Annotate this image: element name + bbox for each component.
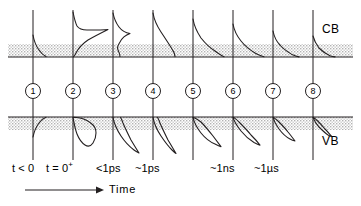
time-label-stage-6: ~1ns [210,163,235,174]
time-label-stage-4: ~1ps [135,163,160,174]
stage-number-5: 5 [187,85,200,98]
stage-number-1: 1 [27,85,40,98]
conduction-band-label: CB [322,23,339,35]
time-label-stage-2-superscript: + [68,160,73,169]
stage-number-2: 2 [67,85,80,98]
stage-number-4: 4 [147,85,160,98]
time-label-stage-3: <1ps [96,163,121,174]
stage-number-7: 7 [267,85,280,98]
conduction-band-strip [8,44,353,57]
stage-number-3: 3 [107,85,120,98]
time-label-stage-7: ~1µs [254,163,279,174]
diagram-canvas [0,0,361,206]
time-label-stage-1: t < 0 [12,163,34,174]
time-label-stage-2: t = 0+ [46,163,73,174]
valence-band-label: VB [322,135,339,147]
stage-number-6: 6 [227,85,240,98]
time-axis-label: Time [109,184,136,195]
time-label-stage-2-text: t = 0 [46,162,68,174]
carrier-relaxation-diagram: 1 2 3 4 5 6 7 8 CB VB t < 0 t = 0+ <1ps … [0,0,361,206]
stage-number-8: 8 [307,85,320,98]
time-axis-arrow [25,187,104,194]
valence-band-strip [8,117,353,130]
